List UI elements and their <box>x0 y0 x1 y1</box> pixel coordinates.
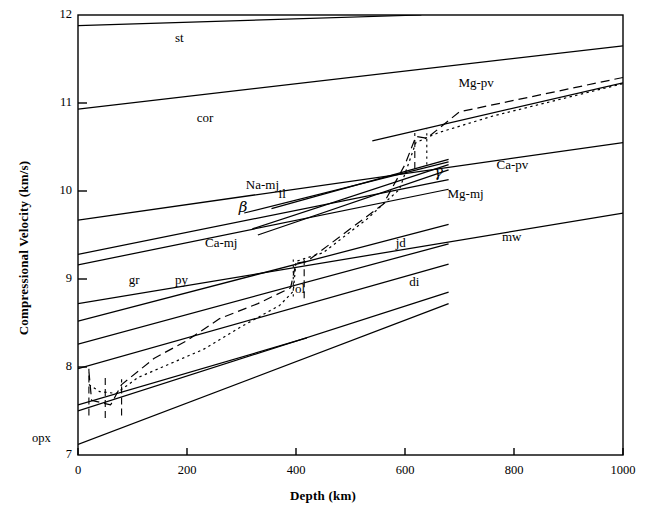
x-tick-label: 800 <box>484 463 544 478</box>
y-axis-title: Compressional Velocity (km/s) <box>16 138 32 358</box>
y-tick-label: 12 <box>38 7 72 22</box>
y-tick-label: 7 <box>38 447 72 462</box>
curve-label-Mg-mj: Mg-mj <box>448 186 484 202</box>
x-tick-label: 0 <box>48 463 108 478</box>
curve-label-mw: mw <box>502 229 522 245</box>
curve-label-py: py <box>175 272 188 288</box>
curve-cor <box>78 46 623 109</box>
plot-canvas <box>0 0 645 524</box>
curve-label-Mg-pv: Mg-pv <box>458 75 493 91</box>
curve-label-cor: cor <box>197 110 214 126</box>
curve-model-dotted <box>89 84 623 394</box>
curve-label-Ca-mj: Ca-mj <box>205 235 238 251</box>
y-axis-opx-label: opx <box>32 431 51 446</box>
curve-label-di: di <box>409 274 419 290</box>
x-tick-label: 200 <box>157 463 217 478</box>
curve-opx <box>78 304 449 445</box>
x-tick-label: 1000 <box>593 463 645 478</box>
data-curves <box>78 15 623 444</box>
curve-label-jd: jd <box>396 235 406 251</box>
axis-frame <box>78 15 623 455</box>
curve-label-gamma: γ <box>434 163 443 181</box>
curve-label-st: st <box>175 30 184 46</box>
compressional-velocity-depth-figure: Compressional Velocity (km/s) Depth (km)… <box>0 0 645 524</box>
curve-label-gr: gr <box>129 272 140 288</box>
x-axis-title: Depth (km) <box>253 488 393 504</box>
curve-model-dashed <box>89 77 623 404</box>
curve-Mg-pv <box>372 83 623 141</box>
curve-st <box>78 15 421 26</box>
curve-Mg-mj <box>78 189 449 265</box>
y-tick-label: 8 <box>38 359 72 374</box>
curve-label-il: il <box>279 186 286 202</box>
x-tick-label: 600 <box>375 463 435 478</box>
curve-label-ol: ol <box>295 281 305 297</box>
curve-il <box>271 159 448 208</box>
curve-di <box>78 292 449 411</box>
curve-label-Ca-pv: Ca-pv <box>497 157 529 173</box>
y-tick-label: 9 <box>38 271 72 286</box>
curve-label-Na-mj: Na-mj <box>246 177 279 193</box>
y-tick-label: 11 <box>38 95 72 110</box>
y-tick-label: 10 <box>38 183 72 198</box>
curve-Ca-pv <box>78 143 623 220</box>
curve-mw <box>78 213 623 304</box>
tick-marks <box>78 103 623 455</box>
curve-label-beta: β <box>239 198 248 216</box>
x-tick-label: 400 <box>266 463 326 478</box>
